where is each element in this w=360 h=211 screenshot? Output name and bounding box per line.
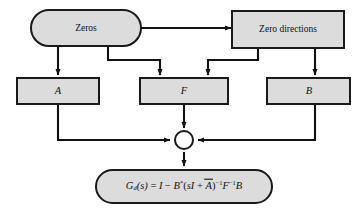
edge-zero-directions-to-f [208, 48, 258, 75]
diagram-canvas: Zeros Zero directions A F B [0, 0, 360, 211]
edge-b-to-junction [198, 104, 315, 140]
node-f-label: F [180, 85, 188, 96]
node-b[interactable]: B [267, 78, 350, 104]
formula-inverse-1: −1 [215, 179, 222, 186]
formula-b-end: B [236, 180, 243, 191]
node-result-formula: Gd(s) = I − B*(sI + A)−1F−1B [126, 179, 243, 192]
summing-junction-circle [175, 131, 193, 149]
node-a[interactable]: A [17, 78, 99, 104]
formula-of-s: (s) [137, 180, 149, 192]
node-zeros-label: Zeros [75, 23, 97, 33]
formula-equals: = [148, 180, 159, 191]
edge-zeros-to-f [108, 47, 160, 75]
node-summing-junction[interactable] [175, 131, 193, 149]
block-diagram: Zeros Zero directions A F B [0, 0, 360, 211]
node-a-label: A [54, 85, 62, 96]
formula-inverse-2: −1 [229, 179, 236, 186]
node-result[interactable]: Gd(s) = I − B*(sI + A)−1F−1B [96, 170, 272, 203]
edge-a-to-junction [58, 104, 170, 140]
formula-plus: + [194, 180, 205, 191]
node-f[interactable]: F [140, 78, 228, 104]
node-zeros[interactable]: Zeros [31, 10, 141, 46]
node-zero-directions[interactable]: Zero directions [232, 11, 344, 48]
node-b-label: B [306, 85, 313, 96]
node-zero-directions-label: Zero directions [259, 24, 317, 34]
formula-minus: − [162, 180, 173, 191]
